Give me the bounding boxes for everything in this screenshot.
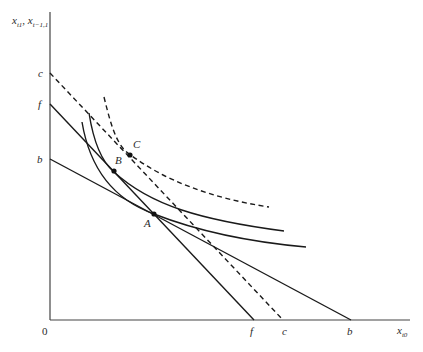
point-c — [127, 152, 132, 157]
x-axis-label: xt0 — [396, 324, 408, 339]
x-intercept-c-label: c — [282, 325, 287, 337]
x-intercept-f-label: f — [250, 325, 255, 337]
y-intercept-f-label: f — [38, 98, 43, 110]
indifference-curve-lower — [82, 122, 306, 247]
origin-label: 0 — [42, 325, 48, 337]
point-a — [151, 211, 156, 216]
y-intercept-c-label: c — [38, 67, 43, 79]
point-c-label: C — [133, 138, 141, 150]
y-intercept-b-label: b — [37, 153, 43, 165]
point-b-label: B — [115, 154, 122, 166]
point-b — [111, 168, 116, 173]
budget-line-ff — [50, 104, 254, 320]
x-intercept-b-label: b — [347, 325, 353, 337]
y-axis-label: xt1, xt−1,1 — [11, 14, 48, 29]
indifference-curve-upper — [104, 97, 269, 207]
point-a-label: A — [143, 217, 151, 229]
diagram-canvas: xt1, xt−1,1 xt0 0 c f b f c b C B A — [0, 0, 423, 352]
indifference-curve-middle — [89, 113, 284, 231]
budget-line-cc — [50, 73, 283, 320]
budget-line-bb — [50, 159, 351, 320]
